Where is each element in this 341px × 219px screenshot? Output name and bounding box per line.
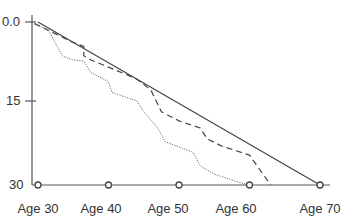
- age-marker-circle: [247, 182, 253, 188]
- y-tick-label-15: 15: [6, 94, 20, 107]
- x-tick-label-age-60: Age 60: [215, 202, 256, 215]
- x-tick-label-age-50: Age 50: [147, 202, 188, 215]
- age-marker-circle: [106, 182, 112, 188]
- series-layer: [35, 22, 321, 185]
- y-tick-label-0: 0.0: [2, 15, 20, 28]
- x-tick-label-age-70: Age 70: [299, 202, 340, 215]
- x-tick-label-age-40: Age 40: [80, 202, 121, 215]
- y-tick-label-30: 30: [9, 178, 23, 191]
- age-marker-circle: [317, 182, 323, 188]
- series-dotted-line: [35, 24, 250, 185]
- age-marker-circle: [35, 182, 41, 188]
- series-dashed-line: [35, 24, 271, 185]
- age-marker-circle: [176, 182, 182, 188]
- x-tick-label-age-30: Age 30: [17, 202, 58, 215]
- series-solid-line: [38, 22, 320, 185]
